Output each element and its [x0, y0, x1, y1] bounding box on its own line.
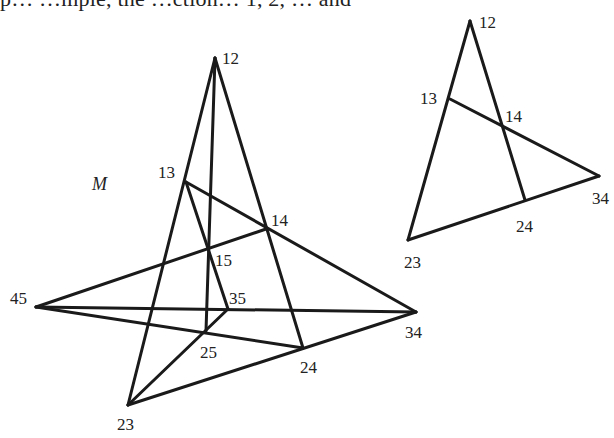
right-point-label-34: 34 — [592, 189, 610, 208]
left-point-label-35: 35 — [229, 289, 246, 308]
left-point-label-13: 13 — [158, 163, 175, 182]
left-point-label-25: 25 — [200, 343, 217, 362]
left-point-label-12: 12 — [222, 49, 239, 68]
left-point-label-24: 24 — [300, 358, 318, 377]
left-line-45-24 — [36, 307, 303, 348]
right-point-label-24: 24 — [516, 217, 534, 236]
left-point-label-14: 14 — [271, 211, 289, 230]
left-figure-lines — [36, 58, 416, 405]
left-point-label-15: 15 — [215, 251, 232, 270]
configuration-diagram: 12131415232425343545 M 121314232434 — [0, 0, 614, 438]
left-figure-M: 12131415232425343545 M — [10, 49, 423, 434]
figure-name-label: M — [91, 174, 108, 194]
left-point-label-23: 23 — [117, 415, 134, 434]
right-line-12-23 — [408, 21, 470, 240]
left-point-label-34: 34 — [405, 323, 423, 342]
right-line-13-34 — [450, 99, 599, 176]
right-point-label-23: 23 — [404, 253, 421, 272]
left-point-label-45: 45 — [10, 289, 27, 308]
left-line-13-34 — [186, 182, 416, 312]
left-line-23-34 — [128, 312, 416, 405]
right-point-label-13: 13 — [420, 89, 437, 108]
right-line-23-34 — [408, 176, 599, 240]
right-figure-lines — [408, 21, 599, 240]
right-figure-triangle: 121314232434 — [404, 13, 610, 272]
right-point-label-14: 14 — [505, 107, 523, 126]
right-point-label-12: 12 — [479, 13, 496, 32]
